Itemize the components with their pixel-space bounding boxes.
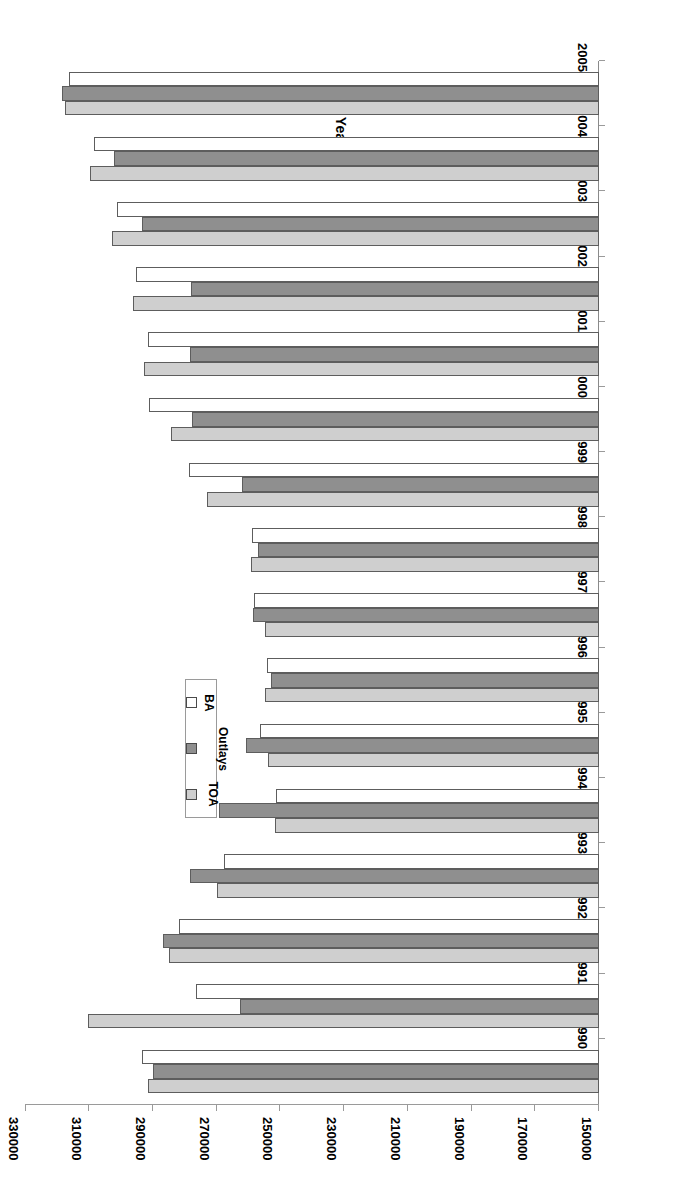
- bar-group: [26, 724, 599, 768]
- bar-toa: [112, 231, 599, 246]
- legend-entry-ba: BA: [186, 680, 216, 726]
- value-tick: [152, 1104, 153, 1111]
- bar-toa: [65, 101, 599, 116]
- legend-label: TOA: [207, 782, 221, 807]
- bar-outlays: [190, 869, 599, 884]
- category-tick: [599, 386, 605, 387]
- plot-area: 1500001700001900002100002300002500002700…: [26, 61, 599, 1104]
- value-axis-line: [26, 1104, 599, 1105]
- legend-swatch-icon: [186, 697, 197, 708]
- bar-group: [26, 528, 599, 572]
- bar-toa: [251, 557, 599, 572]
- bar-ba: [136, 267, 599, 282]
- bar-outlays: [258, 543, 599, 558]
- bar-ba: [224, 854, 599, 869]
- bar-toa: [268, 753, 599, 768]
- bar-toa: [171, 427, 599, 442]
- value-tick-label: 310000: [69, 1117, 84, 1160]
- value-tick-label: 270000: [197, 1117, 212, 1160]
- value-tick: [534, 1104, 535, 1111]
- bar-group: [26, 854, 599, 898]
- value-tick-label: 170000: [515, 1117, 530, 1160]
- bar-toa: [207, 492, 599, 507]
- category-tick: [599, 321, 605, 322]
- bar-group: [26, 463, 599, 507]
- category-tick: [599, 973, 605, 974]
- value-tick-label: 290000: [133, 1117, 148, 1160]
- value-tick: [407, 1104, 408, 1111]
- legend-label: Outlays: [216, 727, 230, 771]
- bar-group: [26, 202, 599, 246]
- bar-outlays: [114, 152, 599, 167]
- bar-ba: [95, 137, 600, 152]
- bar-outlays: [246, 738, 599, 753]
- bar-outlays: [190, 347, 599, 362]
- bar-outlays: [219, 803, 599, 818]
- value-tick-label: 250000: [261, 1117, 276, 1160]
- bar-toa: [144, 362, 599, 377]
- bar-toa: [265, 622, 599, 637]
- bar-group: [26, 984, 599, 1028]
- bar-outlays: [62, 86, 599, 101]
- bar-group: [26, 332, 599, 376]
- category-tick-label: 2005: [575, 43, 590, 72]
- value-tick-label: 330000: [6, 1117, 21, 1160]
- value-tick: [280, 1104, 281, 1111]
- bar-toa: [265, 688, 599, 703]
- bar-ba: [142, 1050, 599, 1065]
- bar-outlays: [242, 477, 599, 492]
- bar-ba: [149, 398, 599, 413]
- category-tick: [599, 256, 605, 257]
- chart-figure: $ in Millions Fiscal Year 15000017000019…: [0, 0, 683, 1204]
- value-tick: [343, 1104, 344, 1111]
- bar-group: [26, 137, 599, 181]
- bar-ba: [260, 724, 599, 739]
- bar-ba: [252, 528, 599, 543]
- category-tick: [599, 1038, 605, 1039]
- bar-toa: [90, 166, 599, 181]
- category-tick: [599, 712, 605, 713]
- bar-ba: [148, 332, 599, 347]
- bar-ba: [69, 72, 599, 87]
- value-tick-label: 190000: [452, 1117, 467, 1160]
- chart-legend: TOAOutlaysBA: [185, 679, 217, 818]
- bar-outlays: [142, 217, 599, 232]
- bar-toa: [169, 948, 599, 963]
- category-tick: [599, 516, 605, 517]
- value-tick-label: 210000: [388, 1117, 403, 1160]
- value-tick-label: 230000: [324, 1117, 339, 1160]
- bar-group: [26, 267, 599, 311]
- value-tick: [88, 1104, 89, 1111]
- plot-wrapper: 1500001700001900002100002300002500002700…: [26, 61, 599, 1104]
- category-tick: [599, 125, 605, 126]
- bar-outlays: [271, 673, 599, 688]
- bar-group: [26, 789, 599, 833]
- category-tick: [599, 451, 605, 452]
- value-tick: [216, 1104, 217, 1111]
- bar-toa: [88, 1014, 599, 1029]
- category-tick: [599, 842, 605, 843]
- value-tick-label: 150000: [579, 1117, 594, 1160]
- category-tick: [599, 907, 605, 908]
- legend-label: BA: [203, 694, 217, 711]
- bar-outlays: [192, 412, 599, 427]
- bar-toa: [217, 883, 599, 898]
- bar-group: [26, 593, 599, 637]
- category-tick: [599, 582, 605, 583]
- value-tick: [25, 1104, 26, 1111]
- bar-ba: [254, 593, 599, 608]
- category-tick: [599, 190, 605, 191]
- value-tick: [471, 1104, 472, 1111]
- bar-outlays: [253, 608, 599, 623]
- legend-entry-toa: TOA: [186, 771, 216, 817]
- bar-group: [26, 658, 599, 702]
- bar-outlays: [153, 1064, 599, 1079]
- bar-group: [26, 398, 599, 442]
- bar-ba: [267, 658, 599, 673]
- bar-group: [26, 919, 599, 963]
- bar-outlays: [163, 934, 599, 949]
- bar-ba: [196, 984, 599, 999]
- category-tick: [599, 60, 605, 61]
- legend-swatch-icon: [186, 743, 197, 754]
- bar-group: [26, 72, 599, 116]
